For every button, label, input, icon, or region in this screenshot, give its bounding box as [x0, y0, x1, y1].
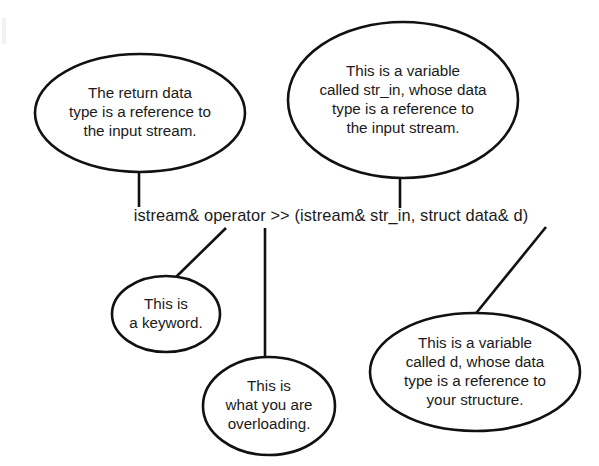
code-signature-line: istream& operator >> (istream& str_in, s… — [134, 206, 528, 225]
d-variable-connector — [473, 227, 546, 317]
callout-keyword: This isa keyword. — [112, 276, 220, 352]
callout-label-return-type: The return datatype is a reference tothe… — [69, 84, 211, 139]
callout-return-type: The return datatype is a reference tothe… — [35, 54, 245, 172]
annotated-code-diagram: The return datatype is a reference tothe… — [0, 0, 599, 466]
keyword-connector — [176, 228, 226, 277]
callout-overloading: This iswhat you areoverloading. — [203, 357, 335, 455]
callout-str-in-variable: This is a variablecalled str_in, whose d… — [288, 22, 518, 178]
diagram-canvas-container: The return datatype is a reference tothe… — [0, 0, 599, 466]
callout-d-variable: This is a variablecalled d, whose dataty… — [370, 313, 580, 431]
callout-group: The return datatype is a reference tothe… — [35, 22, 580, 455]
